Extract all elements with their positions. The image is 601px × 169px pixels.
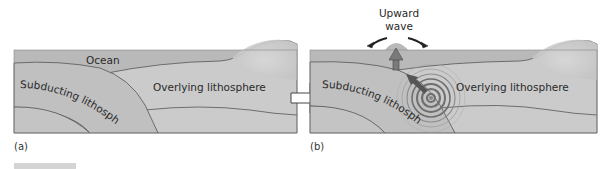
ocean-label: Ocean xyxy=(86,54,120,66)
caption-a: (a) xyxy=(14,141,28,152)
caption-b: (b) xyxy=(310,141,324,152)
upward-label-line1: Upward xyxy=(379,7,419,19)
overlying-label-b: Overlying lithosphere xyxy=(456,81,569,93)
upward-label-line2: wave xyxy=(385,20,413,32)
panel-a: Ocean Subducting lithosphere Overlying l… xyxy=(0,0,297,152)
focus-point xyxy=(429,96,433,100)
diagram-canvas: Ocean Subducting lithosphere Overlying l… xyxy=(0,0,601,169)
overlying-label-a: Overlying lithosphere xyxy=(153,81,266,93)
scrollbar[interactable] xyxy=(14,163,76,169)
